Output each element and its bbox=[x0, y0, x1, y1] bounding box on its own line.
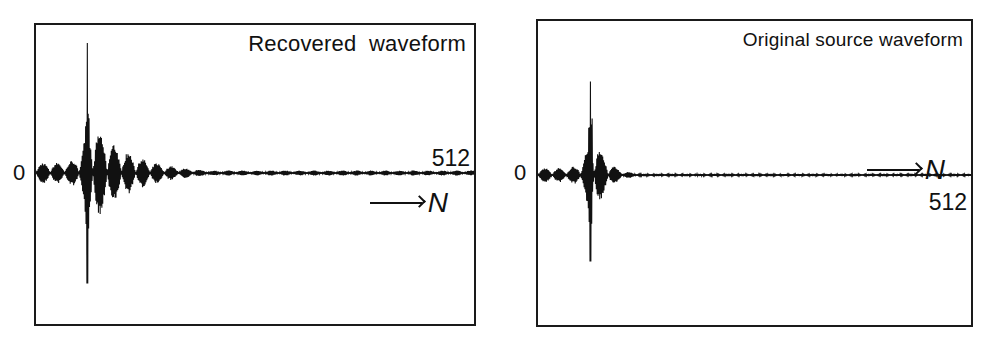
x-end-label-512: 512 bbox=[929, 189, 967, 216]
right-zero-label: 0 bbox=[514, 160, 526, 186]
figure-caption-cropped bbox=[30, 342, 930, 348]
left-zero-label: 0 bbox=[13, 160, 25, 186]
original-source-waveform-plot: Original source waveform N 512 bbox=[536, 19, 973, 327]
x-end-label-512: 512 bbox=[432, 145, 470, 172]
recovered-waveform-plot: Recovered waveform 512 N bbox=[34, 23, 476, 326]
n-axis-arrow: N bbox=[867, 154, 945, 186]
plot-title-recovered: Recovered waveform bbox=[248, 31, 466, 57]
recovered-waveform-svg bbox=[36, 25, 474, 324]
waveform-trace-recovered bbox=[36, 43, 474, 284]
n-axis-label: N bbox=[428, 187, 448, 219]
plot-title-original: Original source waveform bbox=[743, 29, 963, 51]
arrow-right-icon bbox=[370, 202, 422, 204]
arrow-right-icon bbox=[867, 169, 919, 171]
n-axis-label: N bbox=[925, 154, 945, 186]
n-axis-arrow: N bbox=[370, 187, 448, 219]
